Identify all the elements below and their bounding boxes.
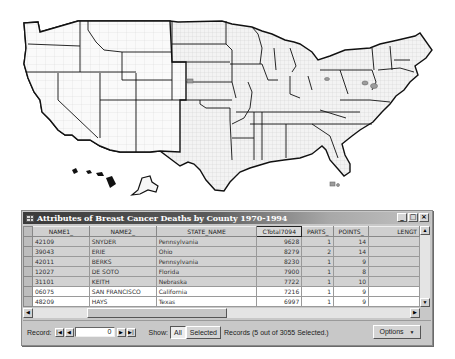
row-selector[interactable] — [24, 277, 33, 287]
cell-name1[interactable]: 31101 — [32, 277, 89, 287]
cell-ctotal7094[interactable]: 9628 — [257, 237, 302, 247]
row-selector[interactable] — [24, 237, 33, 247]
row-selector[interactable] — [24, 297, 33, 307]
cell-name1[interactable]: 48209 — [32, 297, 89, 307]
cell-name2[interactable]: SAN FRANCISCO — [89, 287, 156, 297]
cell-points[interactable]: 9 — [334, 257, 369, 267]
cell-statename[interactable]: Pennsylvania — [156, 237, 257, 247]
cell-statename[interactable]: Pennsylvania — [156, 257, 257, 267]
show-all-button[interactable]: All — [170, 326, 186, 339]
cell-name1[interactable]: 42109 — [32, 237, 89, 247]
show-label: Show: — [149, 329, 168, 336]
column-header-state-name[interactable]: STATE_NAME — [156, 227, 257, 237]
column-header-points[interactable]: POINTS_ — [334, 227, 369, 237]
cell-statename[interactable]: Florida — [156, 267, 257, 277]
cell-lengt[interactable] — [369, 297, 420, 307]
window-title: Attributes of Breast Cancer Deaths by Co… — [37, 213, 287, 223]
vertical-scrollbar[interactable]: ▲ ▼ — [420, 226, 430, 307]
cell-parts[interactable]: 1 — [302, 257, 334, 267]
cell-parts[interactable]: 2 — [302, 247, 334, 257]
table-row[interactable]: 48209HAYSTexas699719 — [24, 297, 420, 307]
cell-ctotal7094[interactable]: 7722 — [257, 277, 302, 287]
cell-lengt[interactable] — [369, 267, 420, 277]
cell-name2[interactable]: BERKS — [89, 257, 156, 267]
cell-parts[interactable]: 1 — [302, 277, 334, 287]
cell-parts[interactable]: 1 — [302, 267, 334, 277]
column-header-length[interactable]: LENGT — [369, 227, 420, 237]
selected-county-snyder-pa — [362, 81, 368, 85]
cell-name2[interactable]: DE SOTO — [89, 267, 156, 277]
column-header-name1[interactable]: NAME1_ — [32, 227, 89, 237]
cell-parts[interactable]: 1 — [302, 297, 334, 307]
table-row[interactable]: 31101KEITHNebraska7722110 — [24, 277, 420, 287]
table-row[interactable]: 06075SAN FRANCISCOCalifornia721619 — [24, 287, 420, 297]
row-selector[interactable] — [24, 267, 33, 277]
cell-name2[interactable]: HAYS — [89, 297, 156, 307]
cell-name2[interactable]: SNYDER — [89, 237, 156, 247]
select-all-cell[interactable] — [24, 227, 33, 237]
next-record-button[interactable]: ▶ — [117, 328, 126, 337]
cell-statename[interactable]: Texas — [156, 297, 257, 307]
table-row[interactable]: 42011BERKSPennsylvania823019 — [24, 257, 420, 267]
table-row[interactable]: 39043ERIEOhio8279214 — [24, 247, 420, 257]
cell-lengt[interactable] — [369, 257, 420, 267]
cell-points[interactable]: 8 — [334, 267, 369, 277]
cell-ctotal7094[interactable]: 7900 — [257, 267, 302, 277]
horizontal-scrollbar[interactable]: ◀ ▶ — [23, 308, 420, 318]
cell-name2[interactable]: ERIE — [89, 247, 156, 257]
previous-record-button[interactable]: ◀ — [65, 328, 74, 337]
scroll-up-button[interactable]: ▲ — [420, 226, 430, 235]
row-selector[interactable] — [24, 247, 33, 257]
scroll-right-button[interactable]: ▶ — [410, 308, 420, 318]
cell-points[interactable]: 10 — [334, 277, 369, 287]
maximize-button[interactable]: □ — [408, 213, 418, 222]
selected-county-desoto-fl — [330, 182, 335, 186]
county-map[interactable] — [0, 0, 455, 205]
column-header-ctotal7094[interactable]: CTotal7094 — [257, 227, 302, 237]
close-button[interactable]: × — [419, 213, 429, 222]
cell-points[interactable]: 9 — [334, 287, 369, 297]
cell-points[interactable]: 9 — [334, 297, 369, 307]
cell-lengt[interactable] — [369, 287, 420, 297]
scroll-down-button[interactable]: ▼ — [420, 298, 430, 307]
cell-lengt[interactable] — [369, 247, 420, 257]
horizontal-scroll-thumb[interactable] — [87, 308, 227, 318]
cell-parts[interactable]: 1 — [302, 287, 334, 297]
cell-ctotal7094[interactable]: 7216 — [257, 287, 302, 297]
table-row[interactable]: 12027DE SOTOFlorida790018 — [24, 267, 420, 277]
row-selector[interactable] — [24, 257, 33, 267]
record-number-input[interactable]: 0 — [75, 327, 115, 337]
scroll-left-button[interactable]: ◀ — [23, 308, 33, 318]
cell-name1[interactable]: 39043 — [32, 247, 89, 257]
selected-county-fl-2 — [337, 184, 340, 187]
table-row[interactable]: 42109SNYDERPennsylvania9628114 — [24, 237, 420, 247]
column-header-parts[interactable]: PARTS_ — [302, 227, 334, 237]
cell-statename[interactable]: Nebraska — [156, 277, 257, 287]
us-county-map-svg[interactable] — [0, 0, 455, 205]
first-record-button[interactable]: |◀ — [55, 328, 64, 337]
cell-statename[interactable]: California — [156, 287, 257, 297]
attribute-grid[interactable]: NAME1_ NAME2_ STATE_NAME CTotal7094 PART… — [23, 226, 420, 307]
selected-county-berks-pa — [371, 84, 378, 89]
cell-name2[interactable]: KEITH — [89, 277, 156, 287]
cell-ctotal7094[interactable]: 6997 — [257, 297, 302, 307]
title-bar[interactable]: Attributes of Breast Cancer Deaths by Co… — [23, 212, 431, 224]
column-header-name2[interactable]: NAME2_ — [89, 227, 156, 237]
row-selector[interactable] — [24, 287, 33, 297]
attribute-table-window[interactable]: Attributes of Breast Cancer Deaths by Co… — [21, 210, 433, 346]
cell-ctotal7094[interactable]: 8279 — [257, 247, 302, 257]
cell-name1[interactable]: 12027 — [32, 267, 89, 277]
cell-name1[interactable]: 06075 — [32, 287, 89, 297]
cell-points[interactable]: 14 — [334, 247, 369, 257]
last-record-button[interactable]: ▶| — [127, 328, 136, 337]
minimize-button[interactable]: _ — [397, 213, 407, 222]
cell-parts[interactable]: 1 — [302, 237, 334, 247]
show-selected-button[interactable]: Selected — [186, 326, 221, 339]
cell-lengt[interactable] — [369, 237, 420, 247]
cell-ctotal7094[interactable]: 8230 — [257, 257, 302, 267]
cell-statename[interactable]: Ohio — [156, 247, 257, 257]
options-button[interactable]: Options ▼ — [373, 325, 421, 339]
cell-lengt[interactable] — [369, 277, 420, 287]
cell-name1[interactable]: 42011 — [32, 257, 89, 267]
cell-points[interactable]: 14 — [334, 237, 369, 247]
